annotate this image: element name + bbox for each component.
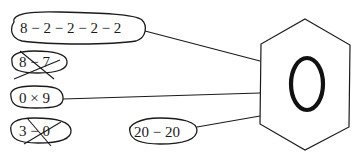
connector-expr-5: [197, 116, 260, 127]
expression-5-label: 20 − 20: [134, 124, 180, 140]
hexagon-outline: [260, 19, 350, 150]
target-label: 0: [307, 89, 308, 90]
expression-2-label: 8 − 7: [19, 54, 50, 70]
connector-expr-1: [145, 31, 260, 61]
target-hexagon[interactable]: 0: [260, 19, 350, 150]
zero-digit-icon: [291, 58, 323, 110]
expression-3-label: 0 × 9: [19, 90, 50, 106]
expression-2[interactable]: 8 − 7: [12, 51, 67, 79]
connector-expr-3: [63, 93, 260, 99]
expression-5[interactable]: 20 − 20: [130, 118, 197, 144]
expression-4[interactable]: 3 − 0: [11, 118, 71, 146]
expression-1[interactable]: 8 − 2 − 2 − 2 − 2: [12, 12, 146, 44]
matching-diagram: 8 − 2 − 2 − 2 − 2 8 − 7 0 × 9 3 − 0 20 −…: [0, 0, 360, 155]
expression-3[interactable]: 0 × 9: [11, 86, 63, 108]
expression-1-label: 8 − 2 − 2 − 2 − 2: [20, 20, 121, 36]
